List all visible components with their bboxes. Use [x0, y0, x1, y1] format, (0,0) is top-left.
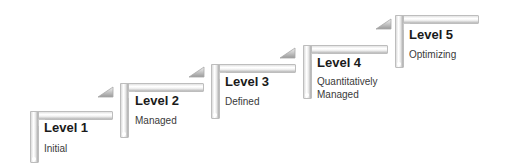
- step-description-line-1: Quantitatively: [317, 75, 378, 88]
- step-title: Level 2: [135, 93, 179, 108]
- step-description: Managed: [135, 114, 177, 127]
- step-description: Initial: [44, 142, 67, 155]
- step-arrow-icon: [97, 86, 114, 98]
- step-corner: [128, 91, 135, 98]
- step-description-line-2: Managed: [317, 88, 359, 101]
- step-arrow-icon: [188, 66, 205, 78]
- step-title: Level 4: [317, 55, 361, 70]
- step-arrow-icon: [375, 18, 392, 30]
- step-title: Level 3: [225, 74, 269, 89]
- step-title: Level 5: [409, 27, 453, 42]
- step-title: Level 1: [44, 120, 88, 135]
- step-description: Optimizing: [409, 48, 456, 61]
- step-description: Defined: [225, 95, 259, 108]
- step-arrow-icon: [279, 47, 296, 59]
